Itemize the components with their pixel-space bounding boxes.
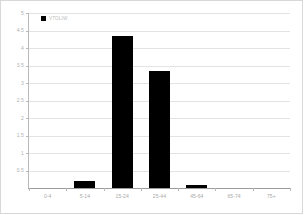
- y-tick-label: 2.5: [0, 98, 24, 103]
- legend-label: VTOLIW: [49, 16, 67, 21]
- x-tick-label: 5-14: [66, 193, 103, 199]
- x-tick-label: 0-4: [29, 193, 66, 199]
- x-tick-mark: [215, 188, 216, 191]
- legend-swatch-icon: [41, 16, 46, 21]
- y-tick-label: 4: [0, 46, 24, 51]
- y-tick-label: 5: [0, 11, 24, 16]
- y-tick-label: 0.5: [0, 168, 24, 173]
- x-tick-mark: [253, 188, 254, 191]
- x-tick-mark: [290, 188, 291, 191]
- bar: [74, 181, 95, 188]
- bar: [112, 36, 133, 188]
- x-tick-mark: [141, 188, 142, 191]
- x-tick-mark: [104, 188, 105, 191]
- bar: [186, 185, 207, 189]
- x-tick-mark: [66, 188, 67, 191]
- y-tick-label: 1.5: [0, 133, 24, 138]
- x-tick-label: 65-74: [215, 193, 252, 199]
- chart-legend: VTOLIW: [41, 16, 67, 21]
- x-axis-spine: [28, 188, 290, 189]
- y-tick-label: 2: [0, 116, 24, 121]
- x-tick-label: 75+: [253, 193, 290, 199]
- x-tick-label: 45-64: [178, 193, 215, 199]
- bars-layer: [29, 13, 290, 188]
- x-tick-label: 15-24: [104, 193, 141, 199]
- x-tick-label: 25-44: [141, 193, 178, 199]
- x-tick-mark: [29, 188, 30, 191]
- y-tick-label: 4.5: [0, 28, 24, 33]
- y-tick-label: 1: [0, 151, 24, 156]
- y-tick-label: 3: [0, 81, 24, 86]
- bar-chart-figure: 0.511.522.533.544.55 0-45-1415-2425-4445…: [0, 0, 304, 215]
- x-tick-mark: [178, 188, 179, 191]
- y-tick-label: 3.5: [0, 63, 24, 68]
- bar: [149, 71, 170, 188]
